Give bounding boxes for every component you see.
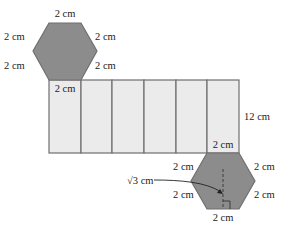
- bottom-hex-lower-right-label: 2 cm: [254, 189, 275, 200]
- top-hexagon: [33, 23, 97, 80]
- lateral-face-4: [144, 80, 176, 153]
- bottom-hex-bottom-label: 2 cm: [213, 212, 234, 223]
- top-hex-lower-right-label: 2 cm: [95, 60, 116, 71]
- lateral-faces: [49, 80, 239, 153]
- bottom-hex-upper-right-label: 2 cm: [254, 161, 275, 172]
- prism-net-diagram: 2 cm 2 cm 2 cm 2 cm 2 cm 2 cm 12 cm 2 cm…: [0, 0, 288, 234]
- lateral-face-3: [112, 80, 144, 153]
- face-height-label: 12 cm: [244, 111, 270, 122]
- lateral-face-2: [81, 80, 112, 153]
- top-hex-upper-right-label: 2 cm: [95, 31, 116, 42]
- bottom-hex-lower-left-label: 2 cm: [173, 189, 194, 200]
- bottom-hex-upper-left-label: 2 cm: [173, 161, 194, 172]
- apothem-label: √3 cm: [127, 175, 153, 186]
- first-face-width-label: 2 cm: [55, 83, 76, 94]
- lateral-face-5: [176, 80, 207, 153]
- top-hex-top-label: 2 cm: [55, 8, 76, 19]
- top-hex-upper-left-label: 2 cm: [4, 31, 25, 42]
- last-face-width-label: 2 cm: [213, 139, 234, 150]
- top-hex-lower-left-label: 2 cm: [4, 60, 25, 71]
